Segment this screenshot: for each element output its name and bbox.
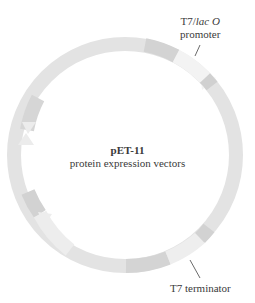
- promoter-label-word: promoter: [180, 28, 220, 40]
- promoter-leader-line: [195, 45, 200, 56]
- segment-after-promoter: [205, 78, 212, 86]
- segment-bottom: [126, 258, 168, 266]
- plasmid-map-figure: T7/lac O promoter pET-11 protein express…: [0, 0, 255, 303]
- segment-top: [145, 45, 176, 56]
- promoter-label-laco: lac O: [196, 15, 220, 27]
- plasmid-subtitle: protein expression vectors: [0, 157, 255, 170]
- terminator-label: T7 terminator: [170, 282, 231, 295]
- plasmid-title: pET-11: [0, 144, 255, 157]
- terminator-leader-line: [190, 260, 200, 278]
- promoter-label: T7/lac O promoter: [180, 15, 220, 41]
- segment-left-lower: [28, 192, 40, 214]
- promoter-label-t7: T7/: [180, 15, 195, 27]
- segment-right-lower: [200, 228, 209, 238]
